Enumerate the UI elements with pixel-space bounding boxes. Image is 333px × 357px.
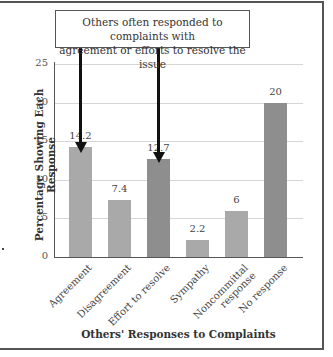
bar-value-label: 2.2: [178, 223, 218, 234]
bar-no-response: [264, 103, 287, 257]
bar-value-label: 7.4: [100, 183, 140, 194]
callout-line-2: agreement or efforts to resolve the issu…: [56, 43, 249, 71]
bar-value-label: 6: [217, 194, 257, 205]
bar-agreement: [69, 147, 92, 257]
x-axis: [54, 257, 303, 258]
frame-right-border: [322, 1, 324, 350]
bar-sympathy: [186, 240, 209, 257]
x-axis-title: Others' Responses to Complaints: [54, 328, 303, 340]
bar-disagreement: [108, 200, 131, 257]
arrow-down-icon: [153, 152, 165, 163]
bar-value-label: 20: [256, 86, 296, 97]
bar-noncommittal-response: [225, 211, 248, 257]
annotation-callout: Others often responded to complaints wit…: [55, 10, 250, 48]
callout-line-1: Others often responded to complaints wit…: [56, 15, 249, 43]
stray-mark: [2, 248, 4, 250]
frame-top-border: [0, 1, 324, 3]
bar-effort-to-resolve: [147, 159, 170, 257]
frame-bottom-border: [0, 348, 324, 350]
arrow-down-icon: [75, 142, 87, 153]
y-axis-title: Percentage Showing Each Response: [33, 60, 57, 270]
